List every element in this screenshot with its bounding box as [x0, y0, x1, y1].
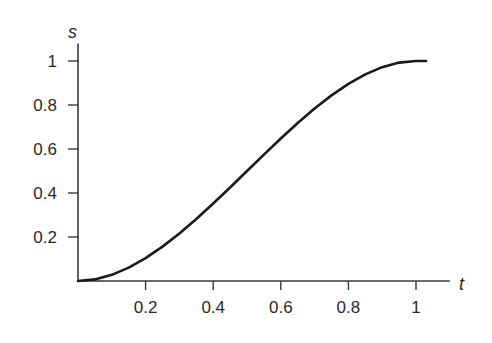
x-tick-label: 1 [411, 298, 420, 317]
chart: 0.20.40.60.810.20.40.60.81 s t [0, 0, 492, 343]
y-tick-label: 0.2 [33, 228, 57, 247]
ticks: 0.20.40.60.810.20.40.60.81 [33, 52, 420, 317]
y-tick-label: 1 [48, 52, 57, 71]
y-axis-label: s [68, 22, 77, 42]
series-line [78, 61, 426, 281]
axes [78, 43, 450, 281]
x-tick-label: 0.2 [134, 298, 158, 317]
y-tick-label: 0.4 [33, 184, 57, 203]
y-tick-label: 0.8 [33, 96, 57, 115]
x-axis-label: t [459, 274, 465, 294]
x-tick-label: 0.4 [201, 298, 225, 317]
series [78, 61, 426, 281]
x-tick-label: 0.8 [337, 298, 361, 317]
y-tick-label: 0.6 [33, 140, 57, 159]
x-tick-label: 0.6 [269, 298, 293, 317]
